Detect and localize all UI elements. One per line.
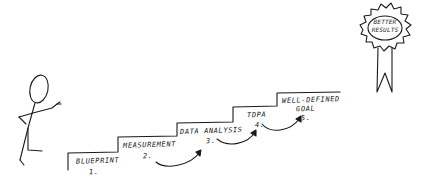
step-5-label-line2: GOAL [296,105,316,114]
award-text: BETTER RESULTS [368,18,402,34]
step-5-number: 5. [301,114,311,122]
stick-figure-icon [19,73,61,165]
step-1-number: 1. [89,168,99,176]
award-ribbon-icon [360,3,411,92]
sketch-canvas [0,0,429,185]
award-line-1: BETTER [368,18,402,26]
step-3-number: 3. [206,137,216,145]
step-4-number: 4. [255,121,265,129]
step-1-label: BLUEPRINT [76,156,120,166]
step-4-label: TDPA [247,111,267,120]
award-line-2: RESULTS [368,26,402,34]
step-2-number: 2. [143,152,153,160]
